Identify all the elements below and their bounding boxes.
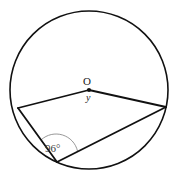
geometry-figure: O y 96° bbox=[0, 0, 175, 180]
center-point-label: O bbox=[83, 76, 91, 87]
central-angle-label: y bbox=[86, 93, 90, 103]
radius-segment-o-c bbox=[89, 90, 166, 107]
inscribed-angle-label: 96° bbox=[45, 143, 60, 154]
chord-segment-b-c bbox=[57, 107, 166, 162]
circle-geometry-diagram bbox=[0, 0, 175, 180]
radius-segment-o-a bbox=[18, 90, 89, 108]
